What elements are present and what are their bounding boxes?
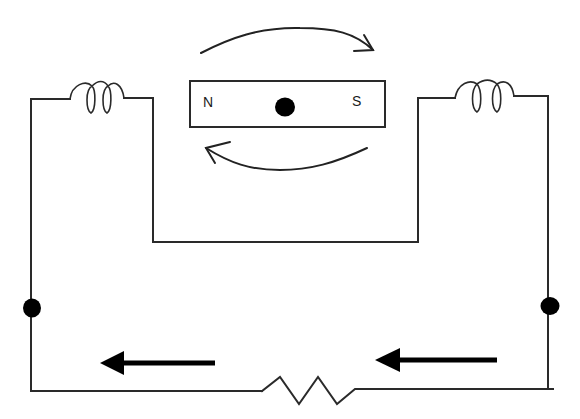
magnet-north-label: N	[203, 94, 213, 110]
left-wire-loop	[31, 98, 455, 391]
right-junction-dot-icon	[541, 297, 560, 315]
magnet-south-label: S	[352, 93, 361, 109]
generator-circuit-diagram: N S	[0, 0, 580, 419]
bar-magnet: N S	[190, 81, 385, 127]
resistor-icon	[262, 377, 553, 404]
rotation-arrow-bottom-icon	[206, 142, 367, 170]
magnet-pivot-dot-icon	[275, 98, 295, 117]
left-coil-icon	[70, 82, 124, 114]
current-arrow-right-icon	[375, 348, 497, 372]
right-wire-loop	[514, 96, 548, 389]
current-arrow-left-icon	[100, 351, 215, 375]
left-junction-dot-icon	[23, 299, 41, 318]
rotation-arrow-top-icon	[201, 28, 373, 53]
right-coil-icon	[455, 80, 514, 112]
bottom-wire	[32, 377, 553, 404]
